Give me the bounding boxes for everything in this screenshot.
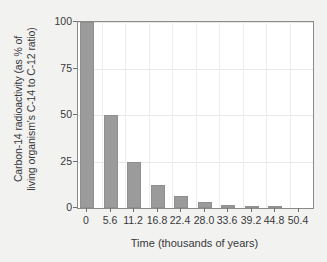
x-axis-tick-mark [180,208,181,212]
x-axis-tick-mark [157,208,158,212]
x-axis-tick-mark [110,208,111,212]
bar [80,22,94,208]
bar [151,185,165,208]
y-axis-tick-mark [73,68,77,69]
gridline-vertical [149,22,150,208]
plot-inner [78,22,313,208]
y-axis-tick-label: 25 [46,156,72,166]
gridline-vertical [290,22,291,208]
bar [221,205,235,208]
bar [198,202,212,208]
y-axis-tick-label: 0 [46,202,72,212]
y-axis-tick-mark [73,161,77,162]
carbon-14-decay-chart: Carbon-14 radioactivity (as % of living … [0,0,327,262]
gridline-vertical [243,22,244,208]
x-axis-tick-mark [133,208,134,212]
bar [127,162,141,209]
y-axis-tick-mark [73,207,77,208]
x-axis-tick-mark [298,208,299,212]
y-axis-tick-mark [73,21,77,22]
x-axis-tick-mark [274,208,275,212]
y-axis-tick-mark [73,114,77,115]
bar [245,206,259,208]
gridline-vertical [102,22,103,208]
x-axis-tick-mark [251,208,252,212]
gridline-vertical [172,22,173,208]
y-axis-title-line-2: living organism's C-14 to C-12 ratio) [25,9,38,209]
x-axis-tick-label: 50.4 [278,214,318,226]
bar [104,115,118,208]
x-axis-tick-mark [86,208,87,212]
x-axis-tick-mark [204,208,205,212]
x-axis-tick-mark [227,208,228,212]
gridline-vertical [196,22,197,208]
x-axis-title: Time (thousands of years) [77,237,312,249]
bar [174,196,188,208]
y-axis-tick-label: 75 [46,63,72,73]
plot-area [77,21,314,209]
y-axis-tick-label: 100 [46,16,72,26]
gridline-vertical [125,22,126,208]
y-axis-title: Carbon-14 radioactivity (as % of living … [12,9,46,209]
gridline-vertical [266,22,267,208]
gridline-vertical [219,22,220,208]
y-axis-title-line-1: Carbon-14 radioactivity (as % of [12,9,25,209]
bar [268,206,282,208]
y-axis-tick-label: 50 [46,109,72,119]
